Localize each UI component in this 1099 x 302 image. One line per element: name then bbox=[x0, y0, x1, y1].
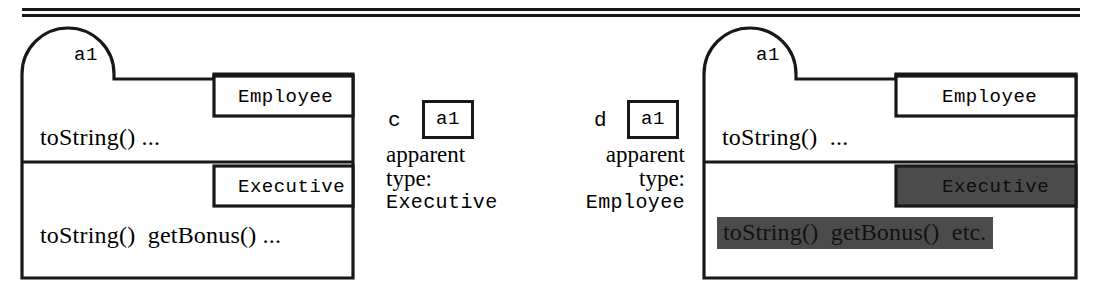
header-rule bbox=[22, 8, 1080, 17]
callout-d-line-2: type: bbox=[583, 167, 685, 191]
right-class-name-executive: Executive bbox=[942, 178, 1049, 197]
right-class-name-employee: Employee bbox=[942, 88, 1037, 107]
right-object-diagram: a1 Employee toString() ... Executive toS… bbox=[700, 24, 1080, 278]
callout-d-line-1: apparent bbox=[583, 143, 685, 167]
callout-c-tag: c bbox=[388, 109, 401, 132]
callout-c-line-3: Executive bbox=[386, 192, 506, 213]
figure-root: a1 Employee toString() ... Executive toS… bbox=[0, 0, 1099, 302]
callout-c-chip-label: a1 bbox=[436, 110, 460, 129]
callout-d-tag: d bbox=[594, 109, 607, 132]
callout-c-object-chip: a1 bbox=[422, 100, 474, 139]
header-rule-line-lower bbox=[22, 14, 1080, 17]
left-methods-employee: toString() ... bbox=[40, 125, 160, 149]
left-class-name-executive: Executive bbox=[238, 178, 345, 197]
callout-c-text: apparent type: Executive bbox=[386, 143, 506, 213]
left-dome-object-id: a1 bbox=[74, 46, 98, 65]
left-methods-executive: toString() getBonus() ... bbox=[40, 223, 281, 247]
right-methods-employee: toString() ... bbox=[722, 125, 848, 149]
callout-d-line-3: Employee bbox=[583, 192, 685, 213]
left-object-diagram: a1 Employee toString() ... Executive toS… bbox=[18, 24, 358, 278]
callout-c: c a1 apparent type: Executive bbox=[386, 98, 506, 228]
callout-d-chip-label: a1 bbox=[641, 110, 665, 129]
callout-d: d a1 apparent type: Employee bbox=[583, 98, 685, 228]
callout-d-object-chip: a1 bbox=[627, 100, 679, 139]
callout-d-text: apparent type: Employee bbox=[583, 143, 685, 213]
right-methods-executive: toString() getBonus() etc. bbox=[717, 217, 993, 249]
callout-c-line-1: apparent bbox=[386, 143, 506, 167]
left-class-name-employee: Employee bbox=[238, 88, 333, 107]
callout-c-line-2: type: bbox=[386, 167, 506, 191]
header-rule-line-upper bbox=[22, 8, 1080, 11]
right-dome-object-id: a1 bbox=[756, 46, 780, 65]
